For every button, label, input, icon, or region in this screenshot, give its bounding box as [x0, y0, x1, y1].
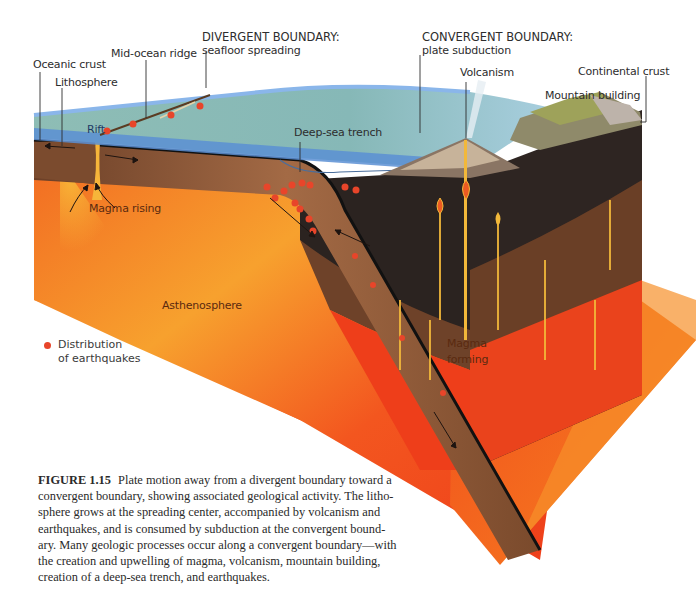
- caption-line-7: creation of a deep-sea trench, and earth…: [38, 569, 528, 585]
- label-oceanic-crust: Oceanic crust: [33, 58, 106, 71]
- label-lithosphere: Lithosphere: [55, 76, 118, 89]
- figure-caption: FIGURE 1.15 Plate motion away from a div…: [38, 472, 528, 585]
- caption-line-4: earthquakes, and is consumed by subducti…: [38, 521, 528, 537]
- label-asthenosphere: Asthenosphere: [162, 299, 242, 312]
- plate-tectonics-figure: DIVERGENT BOUNDARY: seafloor spreading C…: [0, 0, 696, 605]
- label-magma-forming-line1: Magma: [447, 337, 487, 350]
- label-mid-ocean-ridge: Mid-ocean ridge: [111, 47, 197, 60]
- caption-line-2: convergent boundary, showing associated …: [38, 488, 528, 504]
- label-seafloor-spreading: seafloor spreading: [202, 44, 301, 57]
- label-rift: Rift: [87, 123, 105, 136]
- figure-number: FIGURE 1.15: [38, 473, 111, 487]
- legend-label-line1: Distribution: [58, 338, 122, 352]
- caption-line-1: FIGURE 1.15 Plate motion away from a div…: [38, 472, 528, 488]
- caption-line-5: ary. Many geologic processes occur along…: [38, 537, 528, 553]
- caption-line-6: the creation and upwelling of magma, vol…: [38, 553, 528, 569]
- label-divergent-boundary: DIVERGENT BOUNDARY:: [202, 31, 340, 44]
- label-magma-forming-line2: forming: [447, 353, 488, 366]
- caption-line-3: sphere grows at the spreading center, ac…: [38, 504, 528, 520]
- earthquake-marker-icon: [44, 342, 51, 349]
- label-magma-rising: Magma rising: [89, 202, 161, 215]
- label-volcanism: Volcanism: [460, 66, 514, 79]
- label-mountain-building: Mountain building: [545, 89, 640, 102]
- label-convergent-boundary: CONVERGENT BOUNDARY:: [422, 31, 573, 44]
- label-continental-crust: Continental crust: [578, 65, 669, 78]
- label-deep-sea-trench: Deep-sea trench: [294, 126, 382, 139]
- label-plate-subduction: plate subduction: [422, 44, 511, 57]
- legend-label-line2: of earthquakes: [58, 352, 141, 366]
